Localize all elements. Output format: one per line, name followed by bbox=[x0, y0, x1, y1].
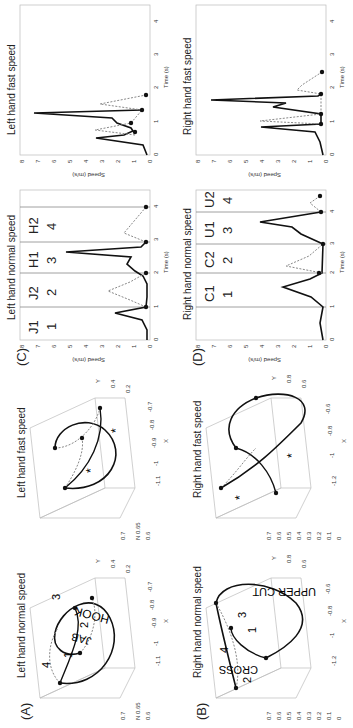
svg-text:0.7: 0.7 bbox=[120, 711, 126, 720]
svg-text:N 0.65: N 0.65 bbox=[135, 522, 141, 540]
svg-text:0: 0 bbox=[329, 337, 335, 341]
svg-text:C1: C1 bbox=[202, 285, 217, 302]
svg-text:3: 3 bbox=[153, 52, 159, 56]
svg-text:1: 1 bbox=[131, 344, 137, 348]
panel-c-fast: Left hand fast speed 012345678 01234 Tim… bbox=[0, 0, 176, 183]
svg-text:0.6: 0.6 bbox=[301, 379, 307, 388]
trajectory-3d-plot: ** 0.7N 0.650.6 -1.1-1-0.9-0.8-0.7 X 0.2… bbox=[0, 368, 176, 548]
svg-text:0.4: 0.4 bbox=[296, 531, 302, 540]
svg-text:0.1: 0.1 bbox=[326, 531, 332, 540]
svg-text:8: 8 bbox=[19, 159, 25, 163]
svg-text:-1: -1 bbox=[153, 460, 159, 466]
svg-text:6: 6 bbox=[51, 344, 57, 348]
svg-text:-1: -1 bbox=[153, 640, 159, 646]
svg-text:4: 4 bbox=[259, 159, 265, 163]
svg-text:4: 4 bbox=[83, 344, 89, 348]
svg-text:1: 1 bbox=[153, 119, 159, 123]
svg-text:0.2: 0.2 bbox=[316, 711, 322, 720]
svg-text:-1.1: -1.1 bbox=[155, 655, 161, 666]
svg-text:6: 6 bbox=[51, 159, 57, 163]
svg-text:2: 2 bbox=[329, 85, 335, 89]
svg-text:4: 4 bbox=[40, 662, 52, 668]
svg-text:7: 7 bbox=[211, 344, 217, 348]
svg-text:2: 2 bbox=[115, 344, 121, 348]
svg-text:UPPER CUT: UPPER CUT bbox=[252, 586, 316, 598]
trajectory-3d-plot: JAB HOOK 12 34 0.7N 0.650.6 -1.1-1-0.9-0… bbox=[0, 548, 176, 728]
svg-text:0.5: 0.5 bbox=[286, 711, 292, 720]
svg-text:-0.9: -0.9 bbox=[151, 617, 157, 628]
svg-text:1: 1 bbox=[307, 344, 313, 348]
svg-text:Speed (m/s): Speed (m/s) bbox=[72, 172, 105, 178]
svg-text:Speed (m/s): Speed (m/s) bbox=[248, 357, 281, 363]
svg-text:6: 6 bbox=[227, 159, 233, 163]
svg-text:*: * bbox=[84, 468, 98, 473]
svg-text:X: X bbox=[341, 439, 347, 443]
svg-text:2: 2 bbox=[115, 159, 121, 163]
svg-text:X: X bbox=[341, 619, 347, 623]
svg-text:0: 0 bbox=[147, 344, 153, 348]
svg-text:X: X bbox=[163, 439, 169, 443]
svg-text:5: 5 bbox=[67, 159, 73, 163]
svg-text:Y: Y bbox=[95, 559, 101, 563]
svg-text:N 0.65: N 0.65 bbox=[135, 702, 141, 720]
svg-text:-1.1: -1.1 bbox=[155, 475, 161, 486]
panel-a: (A) Left hand normal speed JAB HOOK 12 3… bbox=[0, 548, 176, 728]
svg-text:1: 1 bbox=[131, 159, 137, 163]
svg-text:4: 4 bbox=[83, 159, 89, 163]
svg-text:8: 8 bbox=[195, 159, 201, 163]
svg-text:-1.2: -1.2 bbox=[331, 655, 337, 666]
svg-text:0: 0 bbox=[153, 152, 159, 156]
panel-b: (B) Right hand normal speed CROSS UPPER … bbox=[176, 548, 353, 728]
svg-text:4: 4 bbox=[153, 204, 159, 208]
svg-text:0.6: 0.6 bbox=[301, 559, 307, 568]
svg-text:0.6: 0.6 bbox=[276, 531, 282, 540]
svg-text:7: 7 bbox=[35, 159, 41, 163]
svg-text:0.4: 0.4 bbox=[296, 711, 302, 720]
svg-text:-1: -1 bbox=[329, 452, 335, 458]
svg-text:4: 4 bbox=[220, 197, 235, 204]
svg-text:1: 1 bbox=[329, 119, 335, 123]
svg-text:2: 2 bbox=[153, 85, 159, 89]
svg-text:-0.6: -0.6 bbox=[325, 403, 331, 414]
trajectory-3d-plot: ** 0.70.60.50.40.30.20.10 -1.2-1-0.8-0.6… bbox=[176, 368, 353, 548]
svg-text:3: 3 bbox=[44, 257, 59, 264]
svg-text:H1: H1 bbox=[26, 251, 41, 268]
svg-text:3: 3 bbox=[329, 241, 335, 245]
svg-text:8: 8 bbox=[19, 344, 25, 348]
svg-text:2: 2 bbox=[78, 622, 90, 628]
svg-text:3: 3 bbox=[329, 52, 335, 56]
speed-line-chart: 012345678 01234 Time (s) Speed (m/s) bbox=[176, 0, 353, 183]
svg-text:1: 1 bbox=[329, 304, 335, 308]
svg-text:1: 1 bbox=[153, 304, 159, 308]
svg-text:U2: U2 bbox=[202, 191, 217, 208]
panel-d-fast: Right hand fast speed 012345678 01234 Ti… bbox=[176, 0, 353, 183]
svg-text:0: 0 bbox=[153, 337, 159, 341]
svg-text:2: 2 bbox=[220, 257, 235, 264]
svg-text:0.7: 0.7 bbox=[266, 531, 272, 540]
svg-text:U1: U1 bbox=[202, 221, 217, 238]
svg-text:2: 2 bbox=[291, 159, 297, 163]
svg-text:2: 2 bbox=[44, 289, 59, 296]
trajectory-3d-plot: CROSS UPPER CUT 12 34 0.70.60.50.40.30.2… bbox=[176, 548, 353, 728]
svg-text:0: 0 bbox=[323, 344, 329, 348]
svg-text:-0.8: -0.8 bbox=[149, 419, 155, 430]
svg-text:0.3: 0.3 bbox=[306, 531, 312, 540]
svg-text:2: 2 bbox=[241, 677, 253, 683]
svg-text:Y: Y bbox=[95, 379, 101, 383]
svg-text:0.1: 0.1 bbox=[326, 711, 332, 720]
svg-text:0.5: 0.5 bbox=[286, 531, 292, 540]
svg-text:3: 3 bbox=[153, 237, 159, 241]
svg-text:Speed (m/s): Speed (m/s) bbox=[72, 357, 105, 363]
svg-text:0.3: 0.3 bbox=[306, 711, 312, 720]
svg-text:1: 1 bbox=[246, 627, 258, 633]
svg-text:0.6: 0.6 bbox=[145, 711, 151, 720]
svg-text:4: 4 bbox=[329, 19, 335, 23]
svg-text:4: 4 bbox=[259, 344, 265, 348]
svg-text:-0.7: -0.7 bbox=[147, 401, 153, 412]
svg-text:-0.7: -0.7 bbox=[147, 581, 153, 592]
svg-text:3: 3 bbox=[99, 159, 105, 163]
svg-text:1: 1 bbox=[62, 652, 74, 658]
svg-text:0.2: 0.2 bbox=[125, 384, 131, 393]
svg-text:0: 0 bbox=[336, 536, 342, 540]
svg-text:JAB: JAB bbox=[70, 631, 93, 648]
